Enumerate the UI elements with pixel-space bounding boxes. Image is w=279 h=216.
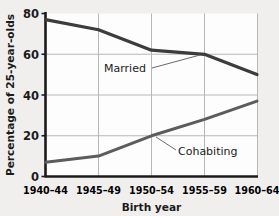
x-tick-label-1945-49: 1945–49 — [76, 185, 121, 196]
x-tick-label-1955-59: 1955–59 — [182, 185, 227, 196]
x-axis-title: Birth year — [122, 201, 182, 213]
y-axis-title: Percentage of 25-year-olds — [4, 14, 16, 176]
x-tick-label-1960-64: 1960–64 — [235, 185, 279, 196]
y-tick-label-40: 40 — [23, 89, 39, 103]
y-tick-label-80: 80 — [23, 7, 39, 21]
y-tick-label-60: 60 — [23, 48, 39, 62]
series-label-married: Married — [104, 62, 146, 75]
y-tick-label-0: 0 — [31, 170, 39, 184]
y-tick-label-20: 20 — [23, 129, 39, 143]
x-tick-label-1940-44: 1940–44 — [23, 185, 68, 196]
x-tick-label-1950-54: 1950–54 — [129, 185, 174, 196]
chart-figure: 80 60 40 20 0 Percentage of 25-year-olds… — [0, 0, 279, 216]
line-chart: 80 60 40 20 0 Percentage of 25-year-olds… — [0, 0, 279, 216]
series-label-cohabiting: Cohabiting — [178, 145, 238, 158]
